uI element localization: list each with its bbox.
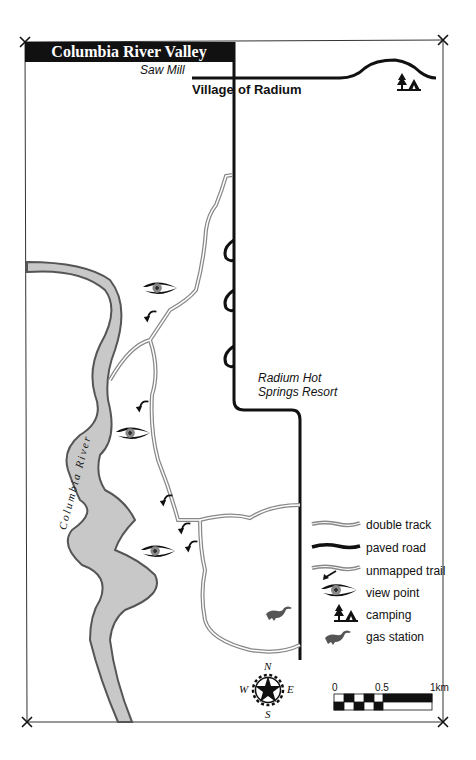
map-canvas bbox=[0, 0, 476, 760]
compass-rose bbox=[253, 675, 283, 705]
unmapped-trail-icon bbox=[178, 523, 191, 534]
gas-station-icon bbox=[266, 607, 292, 622]
camping-icon bbox=[397, 73, 421, 91]
compass-s: S bbox=[265, 708, 271, 720]
resort-line1: Radium Hot bbox=[258, 371, 337, 385]
place-resort: Radium Hot Springs Resort bbox=[258, 371, 337, 399]
compass-n: N bbox=[264, 660, 271, 672]
legend-double-track: double track bbox=[366, 518, 431, 532]
resort-line2: Springs Resort bbox=[258, 385, 337, 399]
place-saw-mill: Saw Mill bbox=[140, 63, 185, 77]
scale-tick-0: 0 bbox=[332, 682, 338, 693]
scale-bar bbox=[334, 694, 432, 710]
unmapped-trail-icon bbox=[144, 311, 157, 322]
place-village-right: of Radium bbox=[238, 82, 302, 97]
place-village-left: Village bbox=[192, 82, 234, 97]
eye-icon bbox=[116, 428, 150, 440]
compass-w: W bbox=[239, 683, 248, 695]
legend-gas-station: gas station bbox=[366, 630, 424, 644]
legend-view-point: view point bbox=[366, 586, 419, 600]
legend-unmapped-trail: unmapped trail bbox=[366, 564, 445, 578]
scale-tick-1km: 1km bbox=[430, 682, 449, 693]
unmapped-trail-icon bbox=[136, 401, 149, 412]
eye-icon bbox=[143, 283, 177, 295]
compass-e: E bbox=[287, 683, 294, 695]
map-title: Columbia River Valley bbox=[25, 42, 233, 62]
legend-camping: camping bbox=[366, 608, 411, 622]
legend-symbols bbox=[312, 523, 360, 646]
legend-paved-road: paved road bbox=[366, 541, 426, 555]
eye-icon bbox=[141, 546, 175, 558]
unmapped-trail-icon bbox=[185, 541, 198, 552]
columbia-river bbox=[27, 262, 157, 722]
scale-tick-half: 0.5 bbox=[375, 682, 389, 693]
